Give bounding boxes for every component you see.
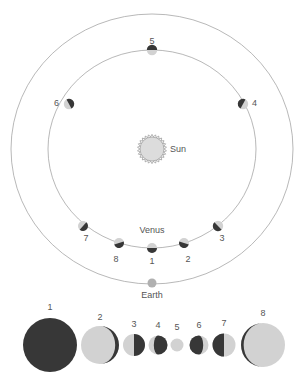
sun-label: Sun [170,144,186,154]
orbit-position-label-2: 2 [185,254,190,264]
phase-4 [149,336,168,355]
phase-7 [213,334,236,357]
phase-2 [81,326,119,364]
phase-label-6: 6 [196,320,201,330]
phase-3 [123,334,145,356]
venus-phase-diagram: Sun Earth Venus 12345678 12345678 [0,0,301,385]
orbit-position-5 [147,45,157,55]
orbit-position-label-1: 1 [149,256,154,266]
earth-icon [148,279,157,288]
phase-label-7: 7 [221,318,226,328]
phase-label-2: 2 [97,312,102,322]
earth-label: Earth [141,290,163,300]
phase-label-8: 8 [260,308,265,318]
phase-label-1: 1 [47,302,52,312]
orbit-position-label-5: 5 [149,36,154,46]
orbit-position-2 [178,238,189,249]
phase-5 [171,339,184,352]
orbit-position-label-6: 6 [54,98,59,108]
phase-label-3: 3 [131,319,136,329]
orbit-position-8 [114,238,125,249]
orbit-position-1 [147,243,157,253]
orbit-position-3 [211,221,224,234]
orbit-position-label-3: 3 [219,233,224,243]
phase-6 [190,336,209,355]
orbit-position-4 [236,97,248,109]
phase-1 [23,318,77,372]
phase-8 [241,323,285,367]
phase-label-5: 5 [174,322,179,332]
venus-label: Venus [139,225,165,235]
phase-label-4: 4 [155,320,160,330]
orbit-position-6 [64,97,76,109]
orbit-position-label-4: 4 [252,98,257,108]
orbit-position-label-8: 8 [113,254,118,264]
sun-icon [138,134,167,163]
orbit-position-label-7: 7 [83,233,88,243]
venus-phase-sequence: 12345678 [23,302,285,372]
